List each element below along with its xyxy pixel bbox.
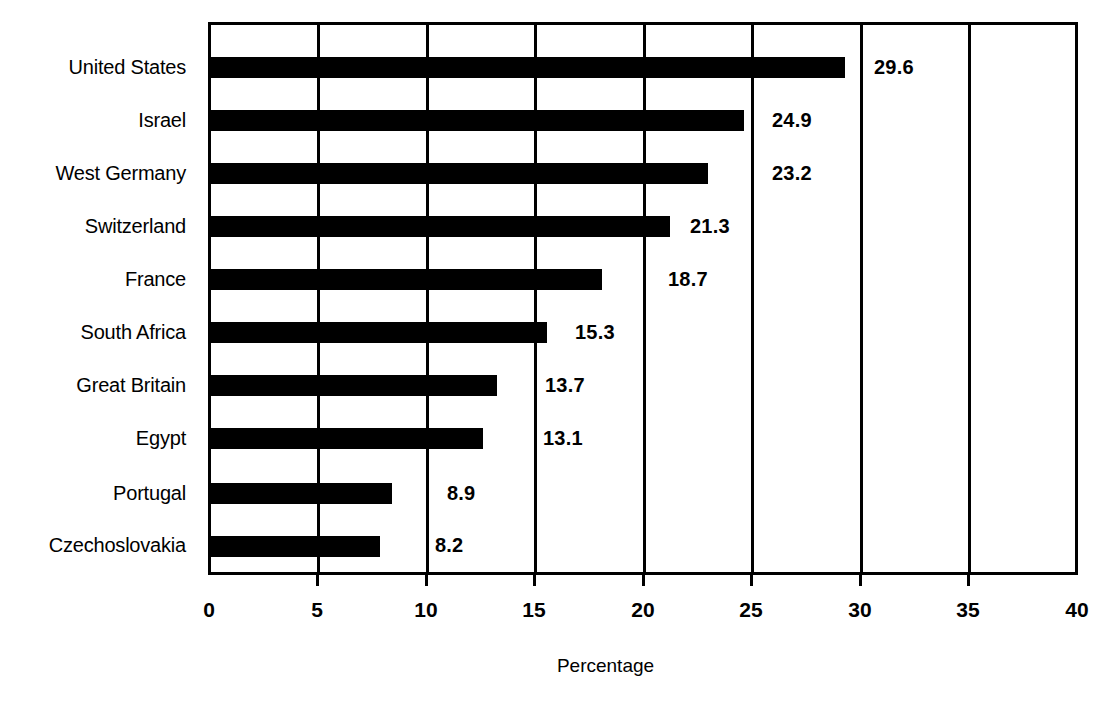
value-label: 18.7 [668,269,708,290]
bar [211,110,744,131]
bar [211,216,670,237]
category-label: Israel [0,110,186,130]
x-tick-label: 15 [504,598,564,622]
x-axis-title: Percentage [0,655,1115,677]
x-tick [316,575,319,586]
gridline-15 [534,25,537,572]
value-label: 15.3 [575,322,615,343]
category-label: United States [0,57,186,77]
bar [211,375,497,396]
plot-area [208,22,1078,575]
value-label: 8.9 [447,483,475,504]
gridline-35 [968,25,971,572]
category-label: Portugal [0,483,186,503]
gridline-30 [860,25,863,572]
value-label: 13.7 [545,375,585,396]
x-axis-title-text: Percentage [557,655,654,676]
gridline-25 [751,25,754,572]
x-tick [425,575,428,586]
x-tick-label: 10 [396,598,456,622]
value-label: 13.1 [543,428,583,449]
bar [211,57,845,78]
x-tick-label: 0 [179,598,239,622]
x-tick [967,575,970,586]
category-label: West Germany [0,163,186,183]
value-label: 8.2 [435,535,463,556]
x-tick [859,575,862,586]
x-tick-label: 5 [287,598,347,622]
x-tick [750,575,753,586]
category-label: France [0,269,186,289]
gridline-20 [643,25,646,572]
category-label: Egypt [0,428,186,448]
x-tick-label: 30 [830,598,890,622]
bar [211,483,392,504]
bar-chart: United States Israel West Germany Switze… [0,0,1115,701]
bar [211,269,602,290]
category-label: Great Britain [0,375,186,395]
value-label: 23.2 [772,163,812,184]
category-label: South Africa [0,322,186,342]
value-label: 29.6 [874,57,914,78]
bar [211,163,708,184]
x-tick-label: 35 [938,598,998,622]
x-tick-label: 40 [1047,598,1107,622]
bar [211,428,483,449]
gridline-10 [426,25,429,572]
x-tick-label: 25 [721,598,781,622]
bar [211,536,380,557]
x-tick [642,575,645,586]
category-label: Switzerland [0,216,186,236]
x-tick [533,575,536,586]
category-label: Czechoslovakia [0,535,186,555]
bar [211,322,547,343]
value-label: 24.9 [772,110,812,131]
value-label: 21.3 [690,216,730,237]
x-tick-label: 20 [613,598,673,622]
